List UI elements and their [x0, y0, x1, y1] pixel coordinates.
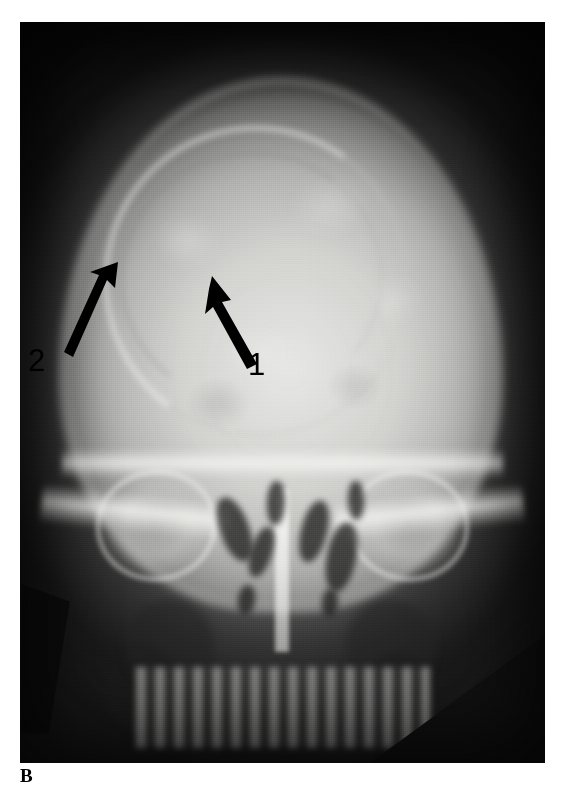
dental-arch	[136, 667, 430, 749]
radiograph-image	[20, 22, 545, 763]
air-cell	[348, 481, 364, 520]
supraorbital-ridge	[62, 448, 503, 478]
panel-label: B	[20, 766, 33, 785]
figure-panel: 1 2 B	[0, 0, 561, 793]
annotation-label-1: 1	[248, 349, 265, 380]
annotation-label-2: 2	[28, 345, 45, 376]
